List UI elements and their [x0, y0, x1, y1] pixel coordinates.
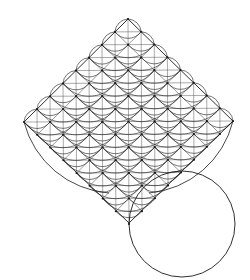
- grid-nodes: [23, 18, 234, 225]
- geometric-diagram: [0, 0, 250, 280]
- tangent-circle: [129, 171, 235, 277]
